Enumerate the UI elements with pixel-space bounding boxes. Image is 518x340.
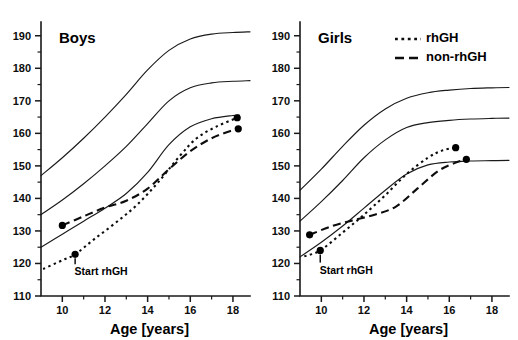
- x-tick-label: 18: [486, 304, 498, 316]
- y-tick-label: 150: [13, 160, 31, 172]
- y-tick-label: 190: [272, 30, 290, 42]
- curve-reference-middle: [300, 118, 509, 221]
- annotations-group: Start rhGH: [320, 254, 373, 275]
- data-point-marker: [306, 231, 313, 238]
- boys-chart-svg: 1101201301401501601701801901012141618Age…: [0, 0, 259, 340]
- y-tick-label: 170: [272, 95, 290, 107]
- y-tick-label: 130: [272, 225, 290, 237]
- x-tick-label: 10: [56, 304, 68, 316]
- x-tick-label: 14: [401, 304, 414, 316]
- y-tick-label: 140: [272, 192, 290, 204]
- x-tick-label: 12: [99, 304, 111, 316]
- y-tick-label: 180: [272, 62, 290, 74]
- y-tick-label: 140: [13, 192, 31, 204]
- y-tick-label: 110: [272, 290, 290, 302]
- x-tick-label: 16: [184, 304, 196, 316]
- x-tick-label: 14: [142, 304, 155, 316]
- girls-chart-svg: 1101201301401501601701801901012141618Age…: [259, 0, 518, 340]
- x-tick-label: 18: [227, 304, 239, 316]
- annotations-group: Start rhGH: [75, 258, 128, 277]
- x-tick-label: 16: [443, 304, 455, 316]
- data-point-marker: [317, 247, 324, 254]
- data-point-marker: [452, 144, 459, 151]
- curve-non-rhGH: [62, 129, 238, 226]
- data-point-marker: [72, 251, 79, 258]
- x-tick-label: 12: [358, 304, 370, 316]
- annotation-start-rhgh: Start rhGH: [320, 264, 373, 276]
- x-axis-ticks: 1012141618: [315, 296, 498, 316]
- chart-panel-girls: 1101201301401501601701801901012141618Age…: [259, 0, 518, 340]
- y-tick-label: 110: [13, 290, 31, 302]
- chart-panel-boys: 1101201301401501601701801901012141618Age…: [0, 0, 259, 340]
- legend: rhGHnon-rhGH: [395, 30, 487, 64]
- y-axis-ticks: 110120130140150160170180190: [272, 30, 300, 302]
- data-point-marker: [463, 156, 470, 163]
- curves-group: [41, 32, 250, 269]
- x-tick-label: 10: [315, 304, 327, 316]
- y-tick-label: 150: [272, 160, 290, 172]
- data-point-marker: [234, 114, 241, 121]
- y-tick-label: 190: [13, 30, 31, 42]
- annotation-start-rhgh: Start rhGH: [75, 265, 128, 277]
- x-axis-title: Age [years]: [369, 321, 448, 337]
- y-tick-label: 160: [272, 127, 290, 139]
- y-tick-label: 120: [13, 257, 31, 269]
- y-tick-label: 120: [272, 257, 290, 269]
- y-tick-label: 170: [13, 95, 31, 107]
- curve-reference-lower: [41, 115, 239, 247]
- markers-group: [306, 144, 470, 254]
- growth-chart-figure: 1101201301401501601701801901012141618Age…: [0, 0, 518, 340]
- curve-non-rhGH: [310, 159, 467, 234]
- legend-label-1: non-rhGH: [426, 49, 487, 64]
- data-point-marker: [235, 125, 242, 132]
- y-axis-ticks: 110120130140150160170180190: [13, 30, 41, 302]
- y-tick-label: 130: [13, 225, 31, 237]
- x-axis-ticks: 1012141618: [56, 296, 239, 316]
- y-tick-label: 180: [13, 62, 31, 74]
- curve-reference-upper: [41, 32, 250, 176]
- curves-group: [300, 87, 509, 256]
- curve-reference-middle: [41, 81, 250, 215]
- data-point-marker: [59, 222, 66, 229]
- panel-title-girls: Girls: [318, 29, 352, 46]
- y-tick-label: 160: [13, 127, 31, 139]
- panel-title-boys: Boys: [59, 29, 96, 46]
- x-axis-title: Age [years]: [110, 321, 189, 337]
- legend-label-0: rhGH: [426, 30, 459, 45]
